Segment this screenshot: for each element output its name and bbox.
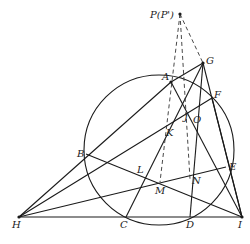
label-B: B	[76, 148, 84, 159]
line-FI	[212, 98, 242, 217]
label-A: A	[161, 71, 169, 82]
line-HA	[19, 82, 171, 217]
label-D: D	[185, 219, 194, 230]
dashed-PN	[180, 14, 190, 179]
line-AI	[171, 82, 242, 217]
label-C: C	[120, 219, 128, 230]
label-E: E	[228, 161, 237, 172]
point-P	[178, 12, 181, 15]
label-H: H	[11, 219, 21, 230]
label-N: N	[191, 175, 202, 186]
label-G: G	[206, 55, 214, 66]
dashed-PM	[160, 14, 180, 182]
label-L: L	[136, 164, 144, 175]
point-G	[201, 61, 204, 64]
point-A	[169, 80, 172, 83]
label-K: K	[165, 127, 174, 138]
label-J: J	[182, 111, 189, 122]
label-F: F	[213, 89, 222, 100]
label-M: M	[154, 185, 166, 196]
label-I: I	[237, 219, 243, 230]
dashed-PG	[180, 14, 203, 63]
label-O: O	[193, 114, 201, 125]
geometry-diagram: P(P') G A F J O K B L E M N H C D I	[0, 0, 250, 244]
label-P: P(P')	[149, 9, 174, 20]
